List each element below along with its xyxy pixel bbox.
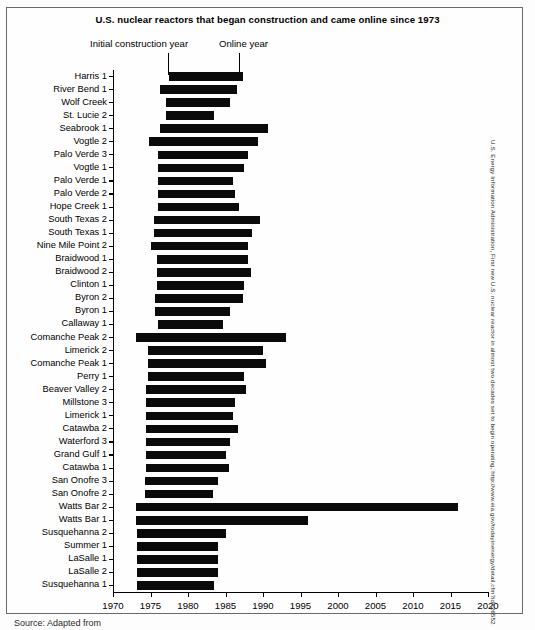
x-axis-tick [113, 592, 114, 597]
bar-row: Harris 1 [113, 70, 488, 83]
y-axis-tick [109, 102, 113, 103]
y-axis-label-waterford-3: Waterford 3 [59, 435, 107, 448]
y-axis-tick [109, 259, 113, 260]
x-axis-tick-label: 1995 [290, 600, 311, 611]
y-axis-label-palo-verde-2: Palo Verde 2 [54, 187, 107, 200]
range-bar [155, 294, 243, 303]
range-bar [146, 425, 238, 434]
range-bar [149, 137, 258, 146]
x-axis-tick [263, 592, 264, 597]
x-axis-tick [301, 592, 302, 597]
bar-row: Comanche Peak 1 [113, 357, 488, 370]
y-axis-label-byron-2: Byron 2 [75, 291, 107, 304]
y-axis-tick [109, 389, 113, 390]
y-axis-label-palo-verde-1: Palo Verde 1 [54, 174, 107, 187]
bottom-caption: Source: Adapted from [14, 618, 101, 628]
bar-row: Susquehanna 1 [113, 579, 488, 592]
source-credit-vertical: U.S. Energy Information Administration, … [490, 140, 497, 570]
bar-row: San Onofre 2 [113, 488, 488, 501]
y-axis-label-perry-1: Perry 1 [77, 370, 107, 383]
range-bar [158, 320, 223, 329]
annotation-initial-construction-year: Initial construction year [90, 38, 188, 49]
y-axis-tick [109, 180, 113, 181]
bar-row: Byron 1 [113, 305, 488, 318]
y-axis-tick [109, 89, 113, 90]
bar-row: Palo Verde 1 [113, 174, 488, 187]
x-axis-tick [151, 592, 152, 597]
y-axis-tick [109, 193, 113, 194]
y-axis-label-san-onofre-3: San Onofre 3 [52, 474, 107, 487]
range-bar [160, 124, 267, 133]
y-axis-tick [109, 585, 113, 586]
bar-row: Watts Bar 1 [113, 514, 488, 527]
x-axis-tick-label: 2005 [365, 600, 386, 611]
range-bar [146, 438, 230, 447]
bar-row: Braidwood 2 [113, 266, 488, 279]
bar-row: LaSalle 1 [113, 553, 488, 566]
bar-row: Susquehanna 2 [113, 527, 488, 540]
y-axis-tick [109, 572, 113, 573]
range-bar [158, 164, 244, 173]
y-axis-tick [109, 428, 113, 429]
y-axis-tick [109, 363, 113, 364]
y-axis-tick [109, 402, 113, 403]
y-axis-tick [109, 441, 113, 442]
range-bar [146, 385, 246, 394]
x-axis-tick [451, 592, 452, 597]
range-bar [146, 398, 235, 407]
y-axis-label-vogtle-2: Vogtle 2 [73, 135, 107, 148]
x-axis-tick-label: 2010 [402, 600, 423, 611]
range-bar [157, 268, 252, 277]
y-axis-label-watts-bar-1: Watts Bar 1 [59, 513, 107, 526]
range-bar [157, 281, 245, 290]
range-bar [137, 555, 218, 564]
y-axis-tick [109, 415, 113, 416]
range-bar [148, 346, 264, 355]
y-axis-label-lasalle-1: LaSalle 1 [68, 552, 107, 565]
bar-row: LaSalle 2 [113, 566, 488, 579]
bar-row: Vogtle 2 [113, 135, 488, 148]
y-axis-label-beaver-valley-2: Beaver Valley 2 [43, 383, 107, 396]
y-axis-label-palo-verde-3: Palo Verde 3 [54, 148, 107, 161]
y-axis-tick [109, 220, 113, 221]
bar-row: Millstone 3 [113, 396, 488, 409]
bar-row: South Texas 2 [113, 214, 488, 227]
bar-row: Palo Verde 2 [113, 187, 488, 200]
y-axis-tick [109, 533, 113, 534]
range-bar [158, 177, 233, 186]
range-bar [137, 529, 226, 538]
y-axis-label-watts-bar-2: Watts Bar 2 [59, 500, 107, 513]
y-axis-label-grand-gulf-1: Grand Gulf 1 [54, 448, 107, 461]
range-bar [146, 451, 226, 460]
y-axis-label-south-texas-2: South Texas 2 [48, 213, 107, 226]
bar-row: Byron 2 [113, 292, 488, 305]
y-axis-tick [109, 337, 113, 338]
y-axis-tick [109, 298, 113, 299]
x-axis-tick [488, 592, 489, 597]
y-axis-label-vogtle-1: Vogtle 1 [73, 161, 107, 174]
range-bar [160, 85, 237, 94]
range-bar [137, 581, 214, 590]
y-axis-tick [109, 468, 113, 469]
y-axis-label-millstone-3: Millstone 3 [63, 396, 107, 409]
y-axis-tick [109, 520, 113, 521]
x-axis-tick [338, 592, 339, 597]
y-axis-label-limerick-2: Limerick 2 [65, 344, 107, 357]
x-axis-tick-label: 1970 [102, 600, 123, 611]
y-axis-tick [109, 272, 113, 273]
bar-row: Comanche Peak 2 [113, 331, 488, 344]
range-bar [145, 477, 219, 486]
y-axis-tick [109, 76, 113, 77]
bar-row: Watts Bar 2 [113, 501, 488, 514]
bar-row: Wolf Creek [113, 96, 488, 109]
bar-row: Palo Verde 3 [113, 148, 488, 161]
bar-row: Perry 1 [113, 370, 488, 383]
range-bar [136, 333, 286, 342]
y-axis-tick [109, 207, 113, 208]
y-axis-label-wolf-creek: Wolf Creek [61, 96, 107, 109]
y-axis-label-catawba-2: Catawba 2 [63, 422, 107, 435]
y-axis-label-harris-1: Harris 1 [74, 70, 107, 83]
range-bar [137, 542, 218, 551]
y-axis-label-susquehanna-1: Susquehanna 1 [42, 578, 107, 591]
bar-row: Catawba 2 [113, 422, 488, 435]
